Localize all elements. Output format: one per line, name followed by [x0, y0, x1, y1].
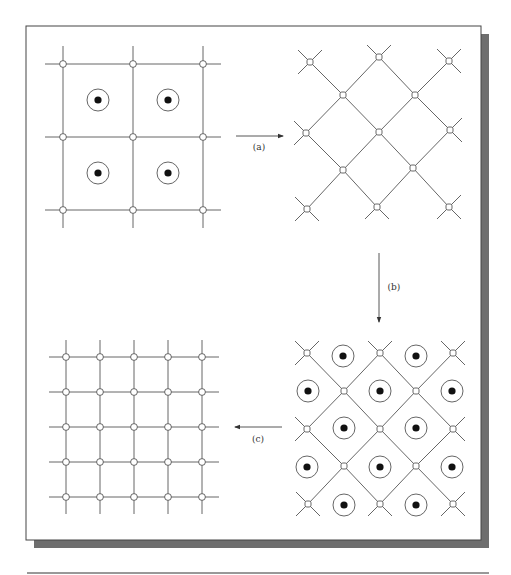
lattice-node-icon: [130, 207, 137, 214]
atom-core-icon: [340, 424, 347, 431]
lattice-node-icon: [63, 459, 70, 466]
lattice-node-icon: [304, 350, 310, 356]
lattice-node-icon: [165, 424, 172, 431]
lattice-node-icon: [413, 388, 419, 394]
lattice-node-icon: [130, 134, 137, 141]
lattice-node-icon: [131, 494, 138, 501]
lattice-node-icon: [200, 207, 207, 214]
lattice-node-icon: [63, 389, 70, 396]
lattice-node-icon: [303, 130, 309, 136]
lattice-transformation-diagram: (a) (b) (c): [0, 0, 511, 575]
atom-core-icon: [376, 463, 383, 470]
lattice-node-icon: [131, 424, 138, 431]
lattice-node-icon: [165, 494, 172, 501]
lattice-node-icon: [307, 59, 313, 65]
lattice-node-icon: [200, 134, 207, 141]
lattice-node-icon: [97, 424, 104, 431]
atom-core-icon: [303, 463, 310, 470]
lattice-node-icon: [200, 61, 207, 68]
lattice-node-icon: [199, 494, 206, 501]
lattice-node-icon: [131, 389, 138, 396]
arrow-c-label: (c): [252, 434, 264, 444]
lattice-node-icon: [60, 134, 67, 141]
lattice-node-icon: [304, 426, 310, 432]
lattice-node-icon: [374, 204, 380, 210]
lattice-node-icon: [447, 127, 453, 133]
atom-core-icon: [340, 501, 347, 508]
lattice-node-icon: [60, 61, 67, 68]
atom-core-icon: [94, 96, 101, 103]
lattice-node-icon: [199, 389, 206, 396]
lattice-node-icon: [413, 463, 419, 469]
lattice-node-icon: [341, 388, 347, 394]
lattice-node-icon: [410, 165, 416, 171]
lattice-node-icon: [376, 54, 382, 60]
atom-core-icon: [448, 387, 455, 394]
lattice-node-icon: [377, 426, 383, 432]
atom-core-icon: [164, 169, 171, 176]
lattice-node-icon: [412, 92, 418, 98]
atom-core-icon: [94, 169, 101, 176]
lattice-node-icon: [199, 459, 206, 466]
lattice-node-icon: [341, 463, 347, 469]
lattice-node-icon: [97, 459, 104, 466]
lattice-node-icon: [60, 207, 67, 214]
lattice-node-icon: [304, 206, 310, 212]
lattice-node-icon: [377, 501, 383, 507]
lattice-node-icon: [199, 424, 206, 431]
lattice-node-icon: [450, 350, 456, 356]
lattice-node-icon: [377, 350, 383, 356]
lattice-node-icon: [450, 501, 456, 507]
lattice-node-icon: [446, 204, 452, 210]
lattice-node-icon: [450, 426, 456, 432]
arrow-b-label: (b): [388, 282, 401, 292]
lattice-node-icon: [63, 494, 70, 501]
atom-core-icon: [339, 352, 346, 359]
atom-core-icon: [412, 424, 419, 431]
atom-core-icon: [304, 387, 311, 394]
atom-core-icon: [412, 352, 419, 359]
lattice-node-icon: [305, 501, 311, 507]
lattice-node-icon: [446, 58, 452, 64]
lattice-node-icon: [340, 92, 346, 98]
lattice-node-icon: [340, 167, 346, 173]
atom-core-icon: [164, 96, 171, 103]
lattice-node-icon: [131, 459, 138, 466]
atom-core-icon: [448, 463, 455, 470]
atom-core-icon: [412, 501, 419, 508]
arrow-a-label: (a): [253, 142, 265, 152]
lattice-node-icon: [97, 389, 104, 396]
lattice-node-icon: [97, 354, 104, 361]
lattice-node-icon: [63, 424, 70, 431]
lattice-node-icon: [130, 61, 137, 68]
lattice-node-icon: [165, 354, 172, 361]
lattice-node-icon: [97, 494, 104, 501]
lattice-node-icon: [376, 129, 382, 135]
lattice-node-icon: [131, 354, 138, 361]
lattice-node-icon: [63, 354, 70, 361]
lattice-node-icon: [199, 354, 206, 361]
atom-core-icon: [376, 387, 383, 394]
lattice-node-icon: [165, 459, 172, 466]
lattice-node-icon: [165, 389, 172, 396]
